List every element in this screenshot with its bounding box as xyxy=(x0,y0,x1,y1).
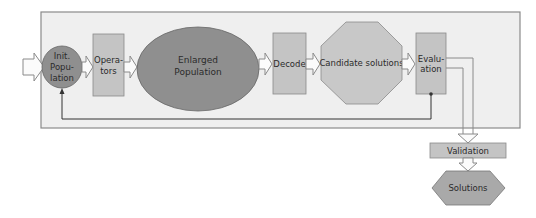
init-population-label-1: Init. xyxy=(54,51,70,61)
node-operators: Opera- tors xyxy=(93,34,124,96)
init-population-label-2: Popu- xyxy=(50,62,74,72)
operators-label-1: Opera- xyxy=(94,55,123,65)
node-solutions: Solutions xyxy=(432,171,505,205)
evaluation-label-2: ation xyxy=(420,64,442,74)
candidate-solutions-label: Candidate solutions xyxy=(319,58,404,68)
solutions-label: Solutions xyxy=(448,183,488,193)
init-population-label-3: lation xyxy=(50,73,74,83)
validation-label: Validation xyxy=(447,146,489,156)
node-evaluation: Evalu- ation xyxy=(416,33,446,94)
node-init-population: Init. Popu- lation xyxy=(42,46,82,88)
arrow-validation-to-solutions xyxy=(459,158,477,171)
flowchart-diagram: Init. Popu- lation Opera- tors Enlarged … xyxy=(0,0,536,218)
enlarged-population-label-2: Population xyxy=(174,67,221,77)
node-decode: Decode xyxy=(273,33,306,94)
operators-label-2: tors xyxy=(100,66,117,76)
enlarged-population-label-1: Enlarged xyxy=(178,55,218,65)
decode-label: Decode xyxy=(273,59,305,69)
node-enlarged-population: Enlarged Population xyxy=(137,27,259,111)
node-validation: Validation xyxy=(430,143,506,158)
evaluation-label-1: Evalu- xyxy=(418,54,444,64)
